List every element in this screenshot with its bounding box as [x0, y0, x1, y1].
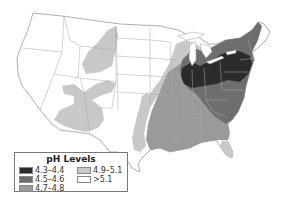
legend-label: 4.9–5.1 — [93, 166, 122, 175]
legend-label: 4.7–4.8 — [35, 184, 64, 193]
legend-item-4.7-4.8: 4.7–4.8 — [19, 184, 64, 193]
legend: pH Levels 4.3–4.4 4.5–4.6 4.7–4.8 4.9–5.… — [14, 152, 128, 192]
legend-item-4.5-4.6: 4.5–4.6 — [19, 175, 64, 184]
legend-swatch — [19, 176, 33, 183]
legend-title: pH Levels — [15, 154, 127, 164]
legend-item-4.9-5.1: 4.9–5.1 — [77, 166, 122, 175]
legend-item-4.3-4.4: 4.3–4.4 — [19, 166, 64, 175]
legend-item-gt-5.1: >5.1 — [77, 175, 112, 184]
legend-label: 4.5–4.6 — [35, 175, 64, 184]
legend-swatch — [19, 185, 33, 192]
legend-label: 4.3–4.4 — [35, 166, 64, 175]
legend-swatch — [77, 176, 91, 183]
legend-swatch — [19, 167, 33, 174]
legend-label: >5.1 — [93, 175, 112, 184]
legend-swatch — [77, 167, 91, 174]
